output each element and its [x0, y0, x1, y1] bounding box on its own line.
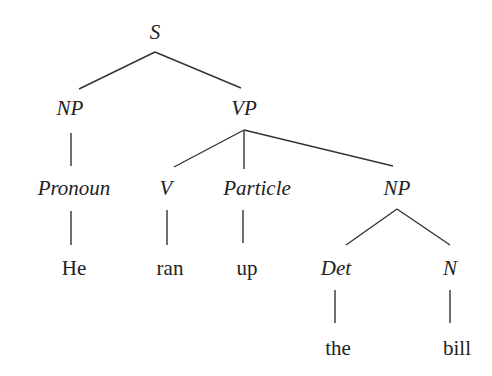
node-pronoun: Pronoun [38, 178, 111, 199]
leaf-bill: bill [443, 338, 471, 359]
node-n: N [443, 258, 457, 279]
leaf-ran: ran [157, 258, 184, 279]
syntax-tree-diagram: S NP VP Pronoun V Particle NP He ran up … [0, 0, 492, 376]
tree-edge [397, 209, 450, 245]
node-vp: VP [231, 98, 257, 119]
node-np-object: NP [384, 178, 411, 199]
tree-edge [346, 209, 397, 245]
node-particle: Particle [223, 178, 291, 199]
node-np-subject: NP [57, 98, 84, 119]
tree-edge [155, 52, 241, 88]
leaf-the: the [325, 338, 351, 359]
tree-edge [174, 130, 244, 167]
node-v: V [160, 178, 173, 199]
node-det: Det [321, 258, 351, 279]
node-s: S [150, 22, 161, 43]
leaf-he: He [62, 258, 87, 279]
tree-edge [244, 130, 393, 166]
leaf-up: up [237, 258, 258, 279]
tree-edge [79, 52, 155, 89]
